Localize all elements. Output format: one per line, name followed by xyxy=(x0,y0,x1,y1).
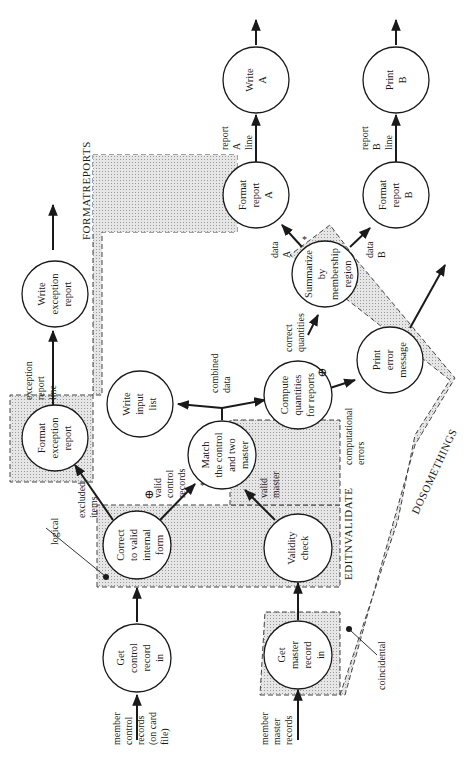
node-label: Match xyxy=(200,441,211,469)
node-label: membership xyxy=(329,248,340,300)
flow-label-correct-quantities: correct quantities xyxy=(283,313,306,352)
svg-text:valid: valid xyxy=(258,478,269,498)
svg-text:excluded: excluded xyxy=(76,482,87,518)
node-format-report-a: Format report A xyxy=(223,162,289,228)
flow-label-data-a: data A xyxy=(269,241,292,258)
svg-text:exception: exception xyxy=(23,361,34,400)
node-label: A xyxy=(257,76,268,84)
node-label: input xyxy=(134,393,145,415)
flow-label-valid-control: valid control records xyxy=(152,468,187,498)
node-write-exception: Write exception report xyxy=(22,261,88,327)
svg-text:file): file) xyxy=(159,728,171,745)
node-label: Print xyxy=(384,70,395,91)
region-label-editnvalidate: EDITNVALIDATE xyxy=(342,488,354,580)
svg-text:member: member xyxy=(111,712,122,745)
node-label: quantities xyxy=(292,375,303,416)
annotation-coincidental: coincidental xyxy=(376,641,387,690)
svg-text:(on card: (on card xyxy=(147,712,159,745)
node-label: in xyxy=(154,653,165,662)
node-label: exception xyxy=(49,273,60,315)
node-correct-valid: Correct to valid internal form xyxy=(103,511,171,579)
node-label: error xyxy=(384,349,395,370)
node-label: check xyxy=(299,535,310,560)
svg-text:records: records xyxy=(283,715,294,745)
node-label: the control xyxy=(213,432,224,477)
flow-label-excluded-items: excluded items xyxy=(76,482,99,518)
flow-combined-to-write-input xyxy=(178,404,222,408)
svg-text:report: report xyxy=(359,126,370,150)
node-label: master xyxy=(289,641,300,669)
node-label: exception xyxy=(49,417,60,459)
node-label: Get xyxy=(276,647,287,662)
svg-text:line: line xyxy=(383,134,394,150)
node-print-b: Print B xyxy=(363,47,429,113)
svg-text:records: records xyxy=(176,468,187,498)
svg-text:line: line xyxy=(243,134,254,150)
node-write-input: Write input list xyxy=(107,371,173,437)
node-label: Write xyxy=(244,68,255,92)
svg-text:data: data xyxy=(269,241,280,258)
node-label: report xyxy=(390,182,401,207)
region-formatreports-right xyxy=(93,155,237,232)
node-label: Summarize xyxy=(303,250,314,298)
node-label: record xyxy=(302,641,313,669)
node-label: B xyxy=(403,191,414,198)
svg-text:records: records xyxy=(135,715,146,745)
flow-label-combined-data: combined data xyxy=(209,354,232,393)
flow-computational-errors xyxy=(330,380,355,388)
svg-text:data: data xyxy=(364,241,375,258)
node-label: report xyxy=(62,425,73,450)
flow-label-report-b-line: report B line xyxy=(359,126,394,150)
flow-label-member-master: member master records xyxy=(259,712,294,745)
svg-text:control: control xyxy=(164,469,175,498)
node-label: Write xyxy=(121,392,132,416)
flow-error-out xyxy=(410,265,445,328)
node-get-control: Get control record in xyxy=(103,624,171,692)
node-label: form xyxy=(154,535,165,555)
node-label: Compute xyxy=(279,375,290,414)
node-label: internal xyxy=(141,529,152,561)
node-match: Match the control and two master xyxy=(188,421,256,489)
svg-text:master: master xyxy=(270,471,281,498)
plus-icon: ⊕ xyxy=(144,487,154,501)
star-icon: * xyxy=(302,234,307,245)
node-label: list xyxy=(147,398,158,411)
svg-text:correct: correct xyxy=(283,324,294,352)
coincidental-dot xyxy=(346,626,352,632)
node-label: master xyxy=(239,441,250,469)
node-validity-check: Validity check xyxy=(264,514,332,582)
node-summarize: Summarize by membership region xyxy=(292,241,358,307)
node-label: Format xyxy=(36,423,47,453)
node-label: report xyxy=(62,281,73,306)
svg-text:A: A xyxy=(231,142,242,150)
svg-text:quantities: quantities xyxy=(295,313,306,352)
flow-label-data-b: data B xyxy=(364,241,387,258)
annotation-logical: logical xyxy=(49,518,60,545)
structured-design-diagram: FORMATREPORTS EDITNVALIDATE DOSOMETHINGS xyxy=(0,0,467,765)
svg-text:B: B xyxy=(376,251,387,258)
node-label: report xyxy=(250,182,261,207)
svg-text:combined: combined xyxy=(209,354,220,393)
node-label: to valid xyxy=(128,528,139,561)
svg-text:member: member xyxy=(259,712,270,745)
node-label: Print xyxy=(371,350,382,371)
node-label: in xyxy=(315,650,326,659)
node-label: Validity xyxy=(286,531,297,565)
svg-text:report: report xyxy=(35,376,46,400)
node-label: and two xyxy=(226,438,237,472)
node-label: record xyxy=(141,644,152,672)
coincidental-leader xyxy=(350,630,377,655)
svg-text:line: line xyxy=(47,384,58,400)
node-label: Correct xyxy=(115,529,126,561)
plus-icon: ⊕ xyxy=(317,365,327,379)
region-label-formatreports: FORMATREPORTS xyxy=(80,141,92,240)
node-label: region xyxy=(342,260,353,288)
node-label: message xyxy=(397,342,408,378)
svg-text:errors: errors xyxy=(355,442,366,465)
flow-label-member-control: member control records (on card file) xyxy=(111,712,171,745)
node-print-error: Print error message xyxy=(357,327,423,393)
node-format-exception: Format exception report xyxy=(22,405,88,471)
node-label: by xyxy=(316,268,327,279)
svg-text:items: items xyxy=(88,496,99,518)
node-label: B xyxy=(397,76,408,83)
